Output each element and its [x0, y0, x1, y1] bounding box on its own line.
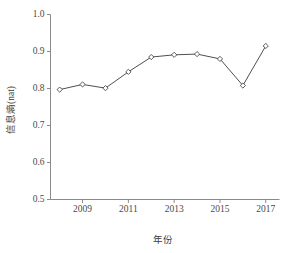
y-tick-label: 0.9: [33, 46, 45, 56]
y-tick-label: 1.0: [33, 9, 45, 19]
chart-svg: 0.50.60.70.80.91.0 20092011201320152017 …: [0, 0, 287, 253]
y-tick-label: 0.8: [33, 83, 45, 93]
line-chart-figure: 0.50.60.70.80.91.0 20092011201320152017 …: [0, 0, 287, 253]
y-axis-title: 信息熵(nat): [5, 86, 17, 134]
x-tick-label: 2011: [119, 204, 138, 214]
y-tick-label: 0.6: [33, 157, 45, 167]
data-point-marker: [149, 54, 154, 59]
x-tick-label: 2009: [73, 204, 92, 214]
y-tick-label: 0.5: [33, 194, 45, 204]
y-axis-ticks: 0.50.60.70.80.91.0: [33, 9, 51, 204]
y-tick-label: 0.7: [33, 120, 45, 130]
x-tick-label: 2015: [210, 204, 229, 214]
x-axis-title: 年份: [153, 234, 173, 245]
x-axis-group: 20092011201320152017: [51, 200, 280, 214]
y-axis-group: 0.50.60.70.80.91.0: [33, 9, 51, 204]
series-markers: [57, 43, 268, 92]
x-tick-label: 2013: [165, 204, 184, 214]
series-line-entropy: [60, 46, 266, 90]
x-tick-label: 2017: [256, 204, 275, 214]
data-point-marker: [57, 87, 62, 92]
data-point-marker: [172, 52, 177, 57]
data-point-marker: [80, 82, 85, 87]
data-series-group: [57, 43, 268, 92]
x-axis-ticks: 20092011201320152017: [73, 200, 275, 214]
data-point-marker: [194, 51, 199, 56]
data-point-marker: [263, 43, 268, 48]
